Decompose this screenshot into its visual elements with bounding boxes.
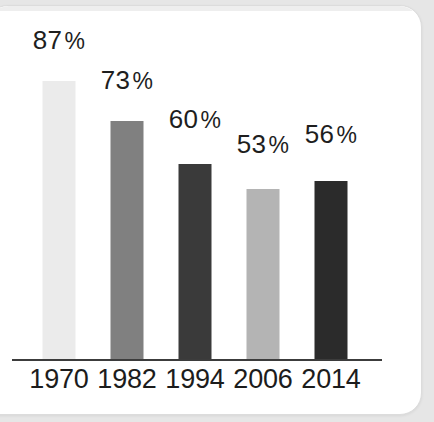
bar-value-label-1982: 73%: [101, 65, 153, 96]
bar-group-2014: 56% 2014: [297, 6, 365, 414]
bar-1970[interactable]: [43, 81, 76, 360]
bar-2014[interactable]: [315, 181, 348, 360]
tick-label-1994: 1994: [165, 364, 224, 395]
x-axis-line: [12, 359, 382, 361]
bar-1994[interactable]: [179, 164, 212, 360]
chart-card-inner: 87% 1970 73% 1982 60% 1994: [0, 6, 421, 414]
screenshot-root: 87% 1970 73% 1982 60% 1994: [0, 0, 434, 422]
bar-2006[interactable]: [247, 189, 280, 360]
bar-1982[interactable]: [111, 121, 144, 360]
percent-sign: %: [337, 122, 358, 148]
percent-sign: %: [133, 68, 154, 94]
tick-label-1970: 1970: [29, 364, 88, 395]
bar-value-label-2006: 53%: [237, 129, 289, 160]
bar-value-label-1994: 60%: [169, 104, 221, 135]
tick-label-1982: 1982: [97, 364, 156, 395]
percent-sign: %: [201, 107, 222, 133]
percent-sign: %: [269, 132, 290, 158]
tick-label-2006: 2006: [233, 364, 292, 395]
chart-card: 87% 1970 73% 1982 60% 1994: [0, 5, 422, 415]
bar-group-1994: 60% 1994: [161, 6, 229, 414]
bar-group-1982: 73% 1982: [93, 6, 161, 414]
bar-value-label-2014: 56%: [305, 119, 357, 150]
percent-sign: %: [65, 28, 86, 54]
bar-group-1970: 87% 1970: [25, 6, 93, 414]
bar-chart: 87% 1970 73% 1982 60% 1994: [0, 6, 421, 414]
bar-group-2006: 53% 2006: [229, 6, 297, 414]
tick-label-2014: 2014: [301, 364, 360, 395]
bar-value-label-1970: 87%: [33, 25, 85, 56]
